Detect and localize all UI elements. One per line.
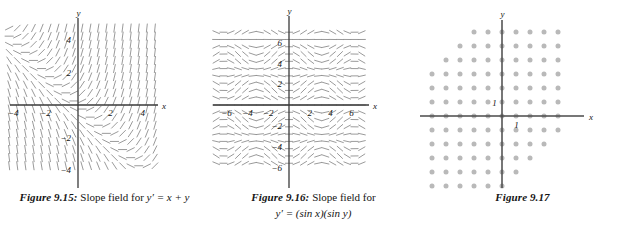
x-axis-label: x xyxy=(588,112,593,122)
figure-9-16-caption-text: Slope field for xyxy=(312,191,376,203)
y-tick-label: 2 xyxy=(67,68,72,78)
slope-field-xplusy: xy−4−224−4−224 xyxy=(0,0,209,190)
lattice-dots xyxy=(430,30,561,189)
x-tick-label: 6 xyxy=(349,108,354,118)
figure-9-16: xy−6−4−2246−6−4−2246 Figure 9.16: Slope … xyxy=(209,0,418,234)
figure-9-16-caption-number: Figure 9.16: xyxy=(251,191,309,203)
y-axis-label: y xyxy=(76,8,81,18)
figure-9-17-caption: Figure 9.17 xyxy=(418,190,627,204)
figure-9-15-caption-text: Slope field for xyxy=(80,191,144,203)
y-tick-label: 2 xyxy=(278,79,283,89)
figure-9-16-caption-equation: y′ = (sin x)(sin y) xyxy=(209,206,418,220)
figure-9-17-caption-number: Figure 9.17 xyxy=(495,191,549,203)
figure-sheet: xy−4−224−4−224 Figure 9.15: Slope field … xyxy=(0,0,627,234)
slope-field-sinxsiny: xy−6−4−2246−6−4−2246 xyxy=(209,0,418,190)
x-tick-label: 4 xyxy=(141,108,146,118)
x-tick-label: −2 xyxy=(263,108,274,118)
x-axis-label: x xyxy=(372,101,377,111)
x-axis-label: x xyxy=(161,101,166,111)
y-tick-label: −6 xyxy=(271,163,282,173)
y-tick-label: 4 xyxy=(67,35,72,45)
y-tick-label: 1 xyxy=(492,98,497,108)
x-tick-label: −4 xyxy=(242,108,253,118)
y-tick-label: −4 xyxy=(60,165,71,175)
x-tick-label: 2 xyxy=(108,108,113,118)
figure-9-15-caption: Figure 9.15: Slope field for y′ = x + y xyxy=(0,190,209,204)
x-tick-label: −4 xyxy=(8,108,19,118)
x-tick-label: 4 xyxy=(328,108,333,118)
x-tick-label: −6 xyxy=(221,108,232,118)
y-axis-label: y xyxy=(287,6,292,16)
figure-9-16-plot: xy−6−4−2246−6−4−2246 xyxy=(209,0,418,190)
figure-9-17-plot: xy11 xyxy=(418,0,627,190)
figure-9-15: xy−4−224−4−224 Figure 9.15: Slope field … xyxy=(0,0,209,234)
y-tick-label: −2 xyxy=(60,133,71,143)
x-tick-label: −2 xyxy=(40,108,51,118)
figure-9-16-caption: Figure 9.16: Slope field for y′ = (sin x… xyxy=(209,190,418,220)
figure-9-15-caption-equation: y′ = x + y xyxy=(147,191,190,203)
y-tick-label: 6 xyxy=(278,38,283,48)
figure-9-17: xy11 Figure 9.17 xyxy=(418,0,627,234)
y-tick-label: −4 xyxy=(271,142,282,152)
y-tick-label: 4 xyxy=(278,59,283,69)
y-tick-label: −2 xyxy=(271,121,282,131)
x-tick-label: 1 xyxy=(514,120,519,130)
figure-9-15-plot: xy−4−224−4−224 xyxy=(0,0,209,190)
y-axis-label: y xyxy=(500,9,505,19)
figure-9-15-caption-number: Figure 9.15: xyxy=(20,191,78,203)
x-tick-label: 2 xyxy=(308,108,313,118)
slope-dashes xyxy=(5,24,158,171)
lattice-dot-plot: xy11 xyxy=(418,0,627,190)
